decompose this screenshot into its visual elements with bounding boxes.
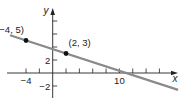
y-tick-label: 2	[45, 55, 50, 66]
point-label: (2, 3)	[69, 37, 91, 48]
x-axis-label: x	[172, 73, 179, 84]
x-tick-label: 10	[114, 75, 125, 86]
data-point	[64, 51, 69, 56]
y-axis-label: y	[43, 5, 50, 16]
line-graph: −4102−2xy(−4, 5)(2, 3)	[0, 0, 181, 100]
data-point	[24, 38, 29, 43]
data-line	[10, 35, 178, 90]
labels: −4102−2xy(−4, 5)(2, 3)	[0, 5, 178, 92]
axes	[7, 8, 178, 98]
point-label: (−4, 5)	[0, 24, 24, 35]
x-tick-label: −4	[21, 75, 32, 86]
y-axis-arrow-icon	[50, 8, 55, 15]
y-tick-label: −2	[39, 81, 50, 92]
